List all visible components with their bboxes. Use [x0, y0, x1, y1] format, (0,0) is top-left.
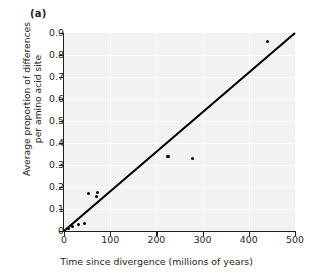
- y-tick-mark: [59, 231, 63, 232]
- y-tick-mark: [59, 99, 63, 100]
- x-tick-mark: [110, 232, 111, 236]
- gridline-vertical: [110, 33, 111, 231]
- x-tick-mark: [203, 232, 204, 236]
- y-tick-label: 0.4: [24, 137, 64, 148]
- plot-area: [64, 33, 295, 231]
- gridline-horizontal: [64, 55, 295, 56]
- figure-container: (a) Average proportion of differences pe…: [0, 0, 313, 280]
- y-tick-label: 0.8: [24, 49, 64, 60]
- data-point: [67, 227, 70, 230]
- y-tick-mark: [59, 143, 63, 144]
- x-tick-label: 500: [275, 234, 313, 245]
- data-point: [95, 195, 98, 198]
- y-tick-mark: [59, 77, 63, 78]
- x-tick-mark: [295, 232, 296, 236]
- y-tick-label: 0.3: [24, 159, 64, 170]
- data-point: [166, 155, 169, 158]
- gridline-vertical: [156, 33, 157, 231]
- gridline-horizontal: [64, 77, 295, 78]
- data-point: [266, 40, 269, 43]
- gridline-horizontal: [64, 209, 295, 210]
- y-tick-label: 0.9: [24, 27, 64, 38]
- gridline-vertical: [203, 33, 204, 231]
- data-point: [77, 223, 80, 226]
- y-tick-mark: [59, 187, 63, 188]
- y-tick-mark: [59, 165, 63, 166]
- data-point: [87, 192, 90, 195]
- y-tick-mark: [59, 33, 63, 34]
- x-tick-mark: [249, 232, 250, 236]
- y-tick-mark: [59, 55, 63, 56]
- y-tick-label: 0.5: [24, 115, 64, 126]
- gridline-horizontal: [64, 99, 295, 100]
- y-tick-label: 0.6: [24, 93, 64, 104]
- gridline-horizontal: [64, 143, 295, 144]
- y-tick-label: 0.1: [24, 203, 64, 214]
- y-tick-label: 0.7: [24, 71, 64, 82]
- x-axis-title: Time since divergence (millions of years…: [0, 256, 313, 267]
- y-tick-mark: [59, 121, 63, 122]
- x-axis-line: [63, 231, 296, 232]
- y-tick-mark: [59, 209, 63, 210]
- gridline-vertical: [249, 33, 250, 231]
- data-point: [71, 225, 74, 228]
- gridline-horizontal: [64, 165, 295, 166]
- y-tick-label: 0.2: [24, 181, 64, 192]
- data-point: [96, 191, 99, 194]
- x-tick-mark: [156, 232, 157, 236]
- data-point: [83, 222, 86, 225]
- gridline-horizontal: [64, 121, 295, 122]
- data-point: [191, 157, 194, 160]
- x-tick-mark: [64, 232, 65, 236]
- gridline-horizontal: [64, 187, 295, 188]
